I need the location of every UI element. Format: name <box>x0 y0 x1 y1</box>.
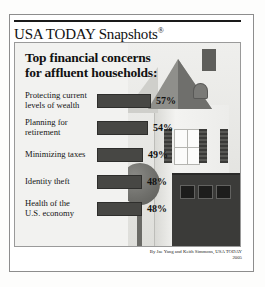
bar-label-line2: levels of wealth <box>25 100 79 110</box>
bar-label: Health of the U.S. economy <box>25 199 97 218</box>
bar-label-line1: Minimizing taxes <box>25 149 85 159</box>
snapshot-infographic: USA TODAY Snapshots® <box>0 0 265 287</box>
bar-label-line1: Health of the <box>25 198 70 208</box>
bar-label: Identity theft <box>25 177 97 187</box>
chart-row: Minimizing taxes 49% <box>25 141 185 168</box>
bar <box>97 175 142 189</box>
bar-value: 49% <box>148 149 168 160</box>
chart-row: Planning for retirement 54% <box>25 114 185 141</box>
bar-value: 48% <box>147 203 167 214</box>
bar-label: Planning for retirement <box>25 118 97 137</box>
chart-row: Identity theft 48% <box>25 168 185 195</box>
registered-mark: ® <box>158 26 164 35</box>
byline: By Jae Yang and Keith Simmons, USA TODAY… <box>100 249 242 261</box>
bar-label-line2: U.S. economy <box>25 208 74 218</box>
byline-credit: By Jae Yang and Keith Simmons, USA TODAY <box>150 249 242 254</box>
bar <box>97 148 143 162</box>
bar-group: 49% <box>97 148 168 162</box>
bar-value: 54% <box>153 122 173 133</box>
chart-row: Health of the U.S. economy 48% <box>25 195 185 222</box>
page-title: Top financial concerns for affluent hous… <box>25 50 165 80</box>
bar <box>97 202 142 216</box>
bar-label-line1: Protecting current <box>25 90 87 100</box>
bar-label: Minimizing taxes <box>25 150 97 160</box>
bar-chart: Protecting current levels of wealth 57% … <box>25 87 185 222</box>
chimney <box>202 49 216 71</box>
bar-group: 48% <box>97 202 167 216</box>
bar-label: Protecting current levels of wealth <box>25 91 97 110</box>
bar-group: 48% <box>97 175 167 189</box>
chart-row: Protecting current levels of wealth 57% <box>25 87 185 114</box>
bar-group: 57% <box>97 94 176 108</box>
window-shutter-far-right <box>220 129 228 163</box>
bar-label-line1: Identity theft <box>25 176 70 186</box>
bar-value: 57% <box>156 95 176 106</box>
bar-label-line2: retirement <box>25 127 60 137</box>
garage-window-pane <box>198 185 213 199</box>
bar <box>97 121 148 135</box>
garage-window-pane <box>216 185 231 199</box>
bar-value: 48% <box>147 176 167 187</box>
bar-label-line1: Planning for <box>25 117 68 127</box>
gable-vent <box>193 83 208 99</box>
byline-year: 2005 <box>100 255 242 261</box>
chart-panel: Top financial concerns for affluent hous… <box>14 42 241 247</box>
brand-title: USA TODAY Snapshots® <box>14 22 234 40</box>
brand-title-text: USA TODAY Snapshots <box>14 26 158 42</box>
bar-group: 54% <box>97 121 173 135</box>
bar <box>97 94 151 108</box>
window-shutter-right <box>199 129 207 163</box>
